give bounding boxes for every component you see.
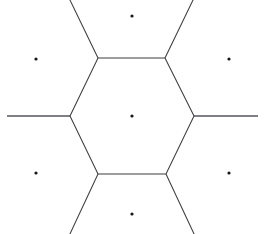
voronoi-canvas	[0, 0, 265, 234]
seed-point-top	[130, 14, 133, 17]
seed-point-lower-left	[34, 171, 37, 174]
seed-point-upper-left	[34, 57, 37, 60]
seed-point-bottom	[130, 212, 133, 215]
seed-point-center	[130, 114, 133, 117]
seed-point-upper-right	[227, 57, 230, 60]
seed-point-lower-right	[227, 171, 230, 174]
voronoi-figure	[0, 0, 265, 234]
